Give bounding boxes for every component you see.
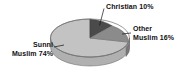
pie-label-christian-text: Christian 10%: [106, 3, 154, 10]
pie-label-christian: Christian 10%: [106, 3, 154, 12]
pie-label-other-muslim: Other Muslim 16%: [133, 25, 174, 42]
pie-chart-figure: Christian 10% Other Muslim 16% Sunni Mus…: [0, 0, 184, 82]
pie-label-other-muslim-line1: Other: [133, 25, 174, 34]
pie-top-face: [50, 19, 129, 57]
pie-label-sunni-muslim-line2: Muslim 74%: [0, 50, 53, 59]
pie-label-other-muslim-line2: Muslim 16%: [133, 34, 174, 43]
pie-label-sunni-muslim: Sunni Muslim 74%: [0, 41, 53, 58]
pie-label-sunni-muslim-line1: Sunni: [0, 41, 53, 50]
